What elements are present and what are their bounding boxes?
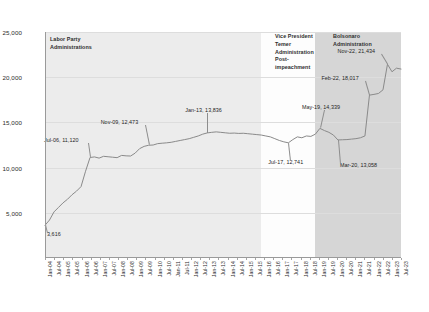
region-label-temer: Vice PresidentTemerAdministrationPost-im…: [275, 33, 319, 72]
x-axis-tick-label: Jul-12: [202, 261, 208, 275]
x-axis-tick-mark: [246, 258, 247, 260]
x-axis-tick-label: Jan-14: [230, 261, 236, 277]
x-axis-tick-label: Jul-08: [129, 261, 135, 275]
x-axis-tick-label: Jan-07: [102, 261, 108, 277]
x-axis-tick-label: Jan-08: [120, 261, 126, 277]
x-axis-tick-label: Jan-10: [157, 261, 163, 277]
data-point-label: Jul-06, 11,120: [44, 137, 78, 143]
x-axis-tick-label: Jul-22: [385, 261, 391, 275]
y-axis-tick-label: 20,000: [0, 74, 22, 81]
x-axis-tick-mark: [337, 258, 338, 260]
y-axis-line: [45, 32, 46, 258]
x-axis-tick-label: Jan-17: [284, 261, 290, 277]
x-axis-tick-mark: [72, 258, 73, 260]
x-axis-tick-mark: [136, 258, 137, 260]
chart-screenshot: 5,00010,00015,00020,00025,000 3,616Jul-0…: [0, 0, 429, 312]
x-axis-tick-label: Jan-13: [211, 261, 217, 277]
y-axis-tick-label: 10,000: [0, 164, 22, 171]
x-axis-tick-label: Jul-16: [275, 261, 281, 275]
x-axis-tick-label: Jul-07: [111, 261, 117, 275]
x-axis-tick-label: Jan-12: [193, 261, 199, 277]
x-axis-tick-mark: [155, 258, 156, 260]
x-axis-tick-mark: [145, 258, 146, 260]
x-axis-tick-mark: [209, 258, 210, 260]
x-axis-tick-mark: [82, 258, 83, 260]
x-axis-tick-mark: [164, 258, 165, 260]
x-axis-tick-label: Jul-20: [348, 261, 354, 275]
x-axis-tick-mark: [127, 258, 128, 260]
x-axis-tick-label: Jul-18: [312, 261, 318, 275]
data-point-label: May-19, 14,339: [302, 104, 340, 110]
x-axis-tick-mark: [310, 258, 311, 260]
x-axis-tick-label: Jul-04: [56, 261, 62, 275]
x-axis-tick-mark: [91, 258, 92, 260]
x-axis-tick-label: Jul-09: [147, 261, 153, 275]
x-axis-tick-label: Jul-21: [366, 261, 372, 275]
x-axis-tick-label: Jul-19: [330, 261, 336, 275]
x-axis-tick-mark: [200, 258, 201, 260]
x-axis-tick-mark: [45, 258, 46, 260]
x-axis-tick-mark: [63, 258, 64, 260]
x-axis-tick-mark: [100, 258, 101, 260]
x-axis-tick-mark: [383, 258, 384, 260]
x-axis-tick-label: Jan-15: [248, 261, 254, 277]
x-axis-tick-mark: [255, 258, 256, 260]
x-axis-tick-mark: [273, 258, 274, 260]
x-axis: Jan-04Jul-04Jan-05Jul-05Jan-06Jul-06Jan-…: [45, 258, 401, 310]
x-axis-tick-mark: [228, 258, 229, 260]
x-axis-tick-label: Jan-04: [47, 261, 53, 277]
data-series-line: [45, 32, 401, 258]
x-axis-tick-mark: [319, 258, 320, 260]
x-axis-tick-label: Jan-22: [376, 261, 382, 277]
x-axis-tick-label: Jan-11: [175, 261, 181, 277]
x-axis-tick-mark: [374, 258, 375, 260]
data-point-label: Feb-22, 18,017: [321, 75, 358, 81]
x-axis-tick-label: Jul-17: [293, 261, 299, 275]
x-axis-tick-mark: [301, 258, 302, 260]
x-axis-tick-mark: [328, 258, 329, 260]
x-axis-tick-label: Jul-10: [166, 261, 172, 275]
x-axis-tick-mark: [109, 258, 110, 260]
x-axis-tick-mark: [392, 258, 393, 260]
x-axis-tick-mark: [364, 258, 365, 260]
x-axis-tick-label: Jan-20: [339, 261, 345, 277]
data-point-label: Nov-09, 12,473: [101, 119, 139, 125]
data-point-label: 3,616: [47, 231, 61, 237]
plot-area: 3,616Jul-06, 11,120Nov-09, 12,473Jan-13,…: [45, 32, 401, 258]
x-axis-tick-label: Jan-18: [303, 261, 309, 277]
x-axis-tick-mark: [173, 258, 174, 260]
x-axis-tick-mark: [237, 258, 238, 260]
x-axis-tick-label: Jul-05: [74, 261, 80, 275]
x-axis-tick-label: Jul-11: [184, 261, 190, 275]
x-axis-tick-label: Jul-06: [93, 261, 99, 275]
data-point-label: Jul-17, 12,741: [268, 159, 303, 165]
x-axis-tick-mark: [291, 258, 292, 260]
x-axis-tick-mark: [218, 258, 219, 260]
region-label-labor-party: Labor PartyAdministrations: [50, 36, 92, 52]
region-label-bolsonaro: BolsonaroAdministration: [333, 33, 383, 49]
x-axis-tick-label: Jul-15: [257, 261, 263, 275]
x-axis-tick-label: Jan-23: [394, 261, 400, 277]
x-axis-tick-label: Jan-09: [138, 261, 144, 277]
x-axis-tick-label: Jul-23: [403, 261, 409, 275]
x-axis-tick-mark: [355, 258, 356, 260]
x-axis-tick-label: Jan-21: [357, 261, 363, 277]
x-axis-tick-label: Jan-16: [266, 261, 272, 277]
y-axis-tick-label: 5,000: [0, 209, 22, 216]
x-axis-tick-mark: [401, 258, 402, 260]
x-axis-tick-mark: [182, 258, 183, 260]
y-axis-tick-label: 15,000: [0, 119, 22, 126]
x-axis-tick-mark: [264, 258, 265, 260]
x-axis-tick-label: Jan-05: [65, 261, 71, 277]
y-axis-tick-label: 25,000: [0, 29, 22, 36]
x-axis-tick-mark: [282, 258, 283, 260]
x-axis-tick-mark: [191, 258, 192, 260]
annotation-leader-line: [207, 113, 208, 133]
data-point-label: Jan-13, 13,836: [185, 107, 222, 113]
data-point-label: Nov-22, 21,434: [337, 48, 375, 54]
x-axis-tick-mark: [54, 258, 55, 260]
x-axis-tick-label: Jan-19: [321, 261, 327, 277]
x-axis-tick-mark: [346, 258, 347, 260]
x-axis-tick-label: Jul-14: [239, 261, 245, 275]
x-axis-tick-label: Jul-13: [220, 261, 226, 275]
